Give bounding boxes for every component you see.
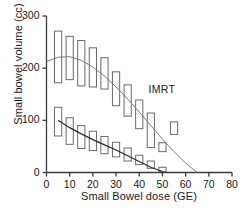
x-tick-label: 20 bbox=[83, 178, 103, 190]
x-tick-label: 40 bbox=[129, 178, 149, 190]
x-tick-label: 70 bbox=[199, 178, 219, 190]
chart-container: Small bowel volume (cc) Small Bowel dose… bbox=[0, 0, 251, 210]
x-tick-label: 10 bbox=[60, 178, 80, 190]
x-tick-label: 0 bbox=[37, 178, 57, 190]
x-tick-label: 80 bbox=[222, 178, 242, 190]
box-marker bbox=[78, 126, 85, 149]
y-tick-label: 0 bbox=[14, 166, 40, 178]
box-marker bbox=[170, 122, 177, 135]
y-tick-label: 100 bbox=[14, 113, 40, 125]
box-marker bbox=[66, 118, 73, 145]
box-marker bbox=[159, 143, 166, 152]
box-marker bbox=[124, 85, 131, 116]
y-tick-label: 300 bbox=[14, 9, 40, 21]
fit-curve bbox=[47, 57, 198, 173]
box-marker bbox=[78, 41, 85, 86]
x-axis-title: Small Bowel dose (GE) bbox=[46, 190, 232, 202]
box-marker bbox=[147, 113, 154, 147]
x-tick-label: 30 bbox=[106, 178, 126, 190]
box-marker bbox=[101, 58, 108, 89]
box-marker bbox=[112, 72, 119, 106]
x-tick-label: 50 bbox=[152, 178, 172, 190]
x-tick-label: 60 bbox=[176, 178, 196, 190]
y-tick-label: 200 bbox=[14, 61, 40, 73]
imrt-series-label: IMRT bbox=[149, 83, 176, 95]
